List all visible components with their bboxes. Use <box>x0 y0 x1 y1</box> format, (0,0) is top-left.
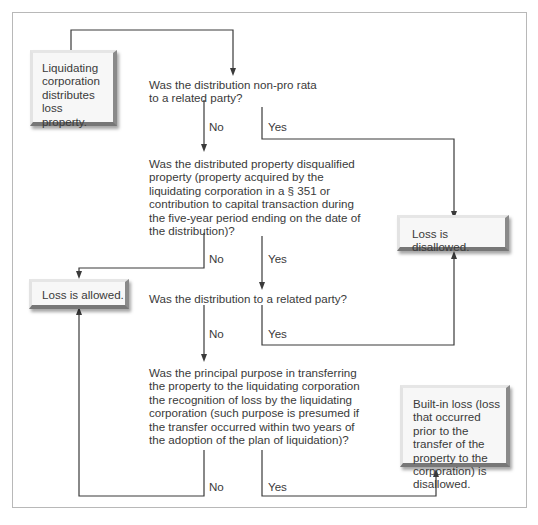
q2-yes-label: Yes <box>268 252 287 265</box>
q1-no-label: No <box>209 120 224 133</box>
outcome-builtin-loss: Built-in loss (loss that occurred prior … <box>400 385 510 467</box>
q4-no-label: No <box>209 480 224 493</box>
question-2: Was the distributed property disqualifie… <box>149 157 369 237</box>
question-1: Was the distribution non-pro rata to a r… <box>149 78 329 105</box>
q4-yes-label: Yes <box>268 480 287 493</box>
question-3: Was the distribution to a related party? <box>149 292 369 305</box>
start-text: Liquidating corporation distributes loss… <box>42 61 100 128</box>
start-box: Liquidating corporation distributes loss… <box>30 50 117 126</box>
question-4: Was the principal purpose in transferrin… <box>149 366 371 446</box>
q2-no-label: No <box>209 252 224 265</box>
q3-yes-label: Yes <box>268 327 287 340</box>
outcome-loss-allowed: Loss is allowed. <box>29 279 129 309</box>
q1-yes-label: Yes <box>268 120 287 133</box>
outcome-loss-disallowed-text: Loss is disallowed. <box>412 227 469 253</box>
outcome-loss-disallowed: Loss is disallowed. <box>397 215 509 251</box>
outcome-loss-allowed-text: Loss is allowed. <box>42 288 124 301</box>
q3-no-label: No <box>209 327 224 340</box>
